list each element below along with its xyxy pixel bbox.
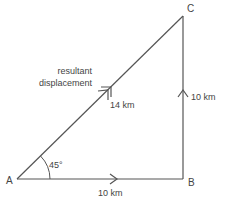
vector-bc-label: 10 km (191, 92, 216, 102)
resultant-annotation-line1: resultant (57, 66, 92, 76)
resultant-annotation-line2: displacement (39, 78, 93, 88)
point-label-b: B (188, 177, 195, 188)
vector-ac-resultant (17, 16, 183, 179)
angle-label: 45° (49, 160, 63, 170)
vector-ab-label: 10 km (98, 188, 123, 198)
point-label-a: A (6, 175, 13, 186)
vector-triangle-diagram: A B C 45° 10 km 10 km 14 km resultant di… (0, 0, 225, 202)
point-label-c: C (187, 3, 194, 14)
vector-ac-label: 14 km (110, 100, 135, 110)
